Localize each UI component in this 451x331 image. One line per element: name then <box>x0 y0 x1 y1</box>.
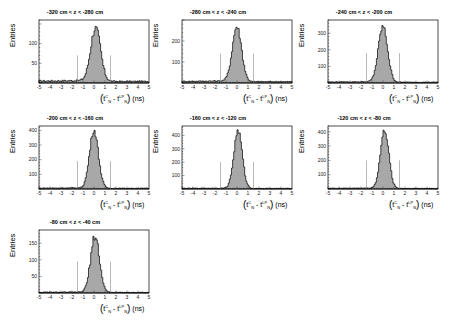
histogram-bars <box>182 27 292 83</box>
x-tick-label: -4 <box>48 294 53 300</box>
x-tick-label: -4 <box>337 190 342 196</box>
y-tick-label: 200 <box>318 157 327 163</box>
x-tick-label: 0 <box>382 84 385 90</box>
y-tick-label: 300 <box>318 143 327 149</box>
panel-title: -160 cm < z < -120 cm <box>143 115 293 121</box>
histogram-bars <box>182 130 292 189</box>
x-tick-label: 4 <box>137 84 140 90</box>
x-tick-label: -1 <box>370 190 375 196</box>
x-tick-label: -2 <box>359 190 364 196</box>
y-tick-label: 100 <box>29 40 38 46</box>
x-tick-label: 4 <box>137 294 140 300</box>
histogram-panel-5: -5-4-3-2-1012345100200300400 -160 cm < z… <box>143 106 293 214</box>
x-tick-label: -5 <box>37 294 42 300</box>
x-tick-label: 2 <box>404 190 407 196</box>
panel-title: -280 cm < z < -240 cm <box>143 9 293 15</box>
y-tick-label: 200 <box>318 47 327 53</box>
x-tick-label: -3 <box>348 190 353 196</box>
y-tick-label: 100 <box>172 59 181 65</box>
x-tick-label: -2 <box>213 84 218 90</box>
x-tick-label: -5 <box>326 190 331 196</box>
x-tick-label: 4 <box>280 190 283 196</box>
y-tick-label: 100 <box>29 171 38 177</box>
histogram-bars <box>39 130 149 189</box>
x-tick-label: 2 <box>115 84 118 90</box>
x-tick-label: 1 <box>393 84 396 90</box>
histogram-panel-4: -5-4-3-2-1012345100200300400 -200 cm < z… <box>0 106 150 214</box>
x-tick-label: 3 <box>415 84 418 90</box>
x-tick-label: 2 <box>258 190 261 196</box>
x-axis-label: (tCN - tLPN) (ns) <box>389 93 433 104</box>
y-tick-label: 300 <box>172 146 181 152</box>
y-tick-label: 50 <box>31 273 37 279</box>
y-tick-label: 200 <box>29 156 38 162</box>
x-tick-label: -2 <box>213 190 218 196</box>
y-tick-label: 100 <box>318 63 327 69</box>
x-tick-label: -1 <box>370 84 375 90</box>
x-tick-label: 4 <box>426 84 429 90</box>
x-tick-label: 3 <box>269 190 272 196</box>
histogram-panel-2: -5-4-3-2-1012345100200 -280 cm < z < -24… <box>143 0 293 108</box>
x-tick-label: 4 <box>137 190 140 196</box>
histogram-panel-7: -5-4-3-2-101234550100150 -80 cm < z < -4… <box>0 210 150 318</box>
x-tick-label: -4 <box>48 190 53 196</box>
histogram-plot: -5-4-3-2-1012345100200300 <box>289 0 439 108</box>
x-tick-label: -3 <box>202 84 207 90</box>
x-axis-label: (tCN - tLPN) (ns) <box>389 199 433 210</box>
x-tick-label: 5 <box>148 294 151 300</box>
y-tick-label: 400 <box>29 127 38 133</box>
x-axis-label: (tCN - tLPN) (ns) <box>100 303 144 314</box>
histogram-bars <box>328 25 438 83</box>
x-tick-label: -5 <box>37 190 42 196</box>
x-tick-label: 1 <box>104 190 107 196</box>
x-tick-label: 1 <box>247 190 250 196</box>
x-tick-label: -5 <box>326 84 331 90</box>
histogram-bars <box>39 236 149 293</box>
x-tick-label: -5 <box>180 190 185 196</box>
x-tick-label: 3 <box>415 190 418 196</box>
x-tick-label: 0 <box>382 190 385 196</box>
x-tick-label: 1 <box>247 84 250 90</box>
x-axis-label: (tCN - tLPN) (ns) <box>100 93 144 104</box>
y-tick-label: 400 <box>318 129 327 135</box>
y-axis-label: Entries <box>8 130 17 153</box>
x-tick-label: 4 <box>280 84 283 90</box>
x-tick-label: 5 <box>437 190 440 196</box>
y-axis-label: Entries <box>8 24 17 47</box>
y-tick-label: 150 <box>29 240 38 246</box>
x-tick-label: -2 <box>70 190 75 196</box>
panel-title: -200 cm < z < -160 cm <box>0 115 150 121</box>
panel-title: -120 cm < z < -80 cm <box>289 115 439 121</box>
histogram-bars <box>39 26 149 83</box>
y-axis-label: Entries <box>297 24 306 47</box>
x-tick-label: -5 <box>37 84 42 90</box>
x-tick-label: 2 <box>404 84 407 90</box>
x-tick-label: 0 <box>93 84 96 90</box>
histogram-plot: -5-4-3-2-101234550100150 <box>0 210 150 318</box>
x-tick-label: 3 <box>126 84 129 90</box>
y-axis-label: Entries <box>151 130 160 153</box>
x-axis-label: (tCN - tLPN) (ns) <box>243 93 287 104</box>
histogram-bars <box>328 130 438 189</box>
histogram-plot: -5-4-3-2-1012345100200 <box>143 0 293 108</box>
x-tick-label: 3 <box>126 190 129 196</box>
x-tick-label: -3 <box>202 190 207 196</box>
x-tick-label: -4 <box>191 84 196 90</box>
x-tick-label: 1 <box>104 294 107 300</box>
panel-title: -240 cm < z < -200 cm <box>289 9 439 15</box>
x-tick-label: -3 <box>59 84 64 90</box>
x-tick-label: -2 <box>70 294 75 300</box>
x-tick-label: 0 <box>93 294 96 300</box>
x-tick-label: -3 <box>59 190 64 196</box>
x-tick-label: 3 <box>126 294 129 300</box>
x-tick-label: 0 <box>236 190 239 196</box>
y-tick-label: 50 <box>31 60 37 66</box>
y-tick-label: 200 <box>172 38 181 44</box>
x-tick-label: -1 <box>81 190 86 196</box>
x-tick-label: 4 <box>426 190 429 196</box>
x-tick-label: -1 <box>81 294 86 300</box>
x-tick-label: -3 <box>348 84 353 90</box>
panel-title: -320 cm < z < -280 cm <box>0 9 150 15</box>
y-axis-label: Entries <box>297 130 306 153</box>
histogram-panel-6: -5-4-3-2-1012345100200300400 -120 cm < z… <box>289 106 439 214</box>
